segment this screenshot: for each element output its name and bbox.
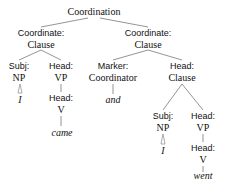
left-head-category: VP [55, 73, 68, 83]
left-verb-head-function: Head: [49, 94, 73, 103]
right-head-category: Clause [168, 73, 195, 83]
left-verb-category: V [57, 105, 64, 115]
right-vp-category: VP [197, 123, 210, 133]
marker-category: Coordinator [89, 73, 137, 83]
left-subj-function: Subj: [9, 62, 30, 71]
right-coordinate-category: Clause [134, 40, 161, 50]
right-subj-function: Subj: [153, 112, 174, 121]
right-verb-category: V [199, 155, 206, 165]
syntax-tree-diagram: Coordination Coordinate: Clause Coordina… [0, 0, 227, 179]
right-verb-head-function: Head: [191, 144, 215, 153]
left-subj-category: NP [13, 73, 26, 83]
word-went: went [194, 171, 213, 179]
left-head-function: Head: [49, 62, 73, 71]
word-I-right: I [161, 146, 164, 156]
right-vp-head-function: Head: [191, 112, 215, 121]
word-came: came [51, 128, 72, 138]
left-coordinate-category: Clause [27, 40, 54, 50]
left-coordinate-function: Coordinate: [18, 29, 65, 38]
marker-function: Marker: [98, 62, 129, 71]
right-subj-category: NP [157, 123, 170, 133]
word-I-left: I [18, 95, 21, 105]
root-node: Coordination [68, 7, 121, 17]
right-head-function: Head: [170, 62, 194, 71]
word-and: and [106, 95, 121, 105]
right-coordinate-function: Coordinate: [125, 29, 172, 38]
